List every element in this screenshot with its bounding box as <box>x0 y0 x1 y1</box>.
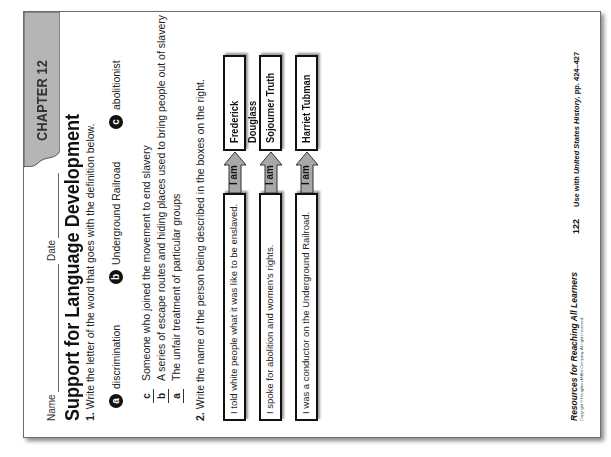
worksheet-page: CHAPTER 12 Name Date Support for Languag… <box>23 11 601 438</box>
chapter-tab: CHAPTER 12 <box>24 12 60 169</box>
letter-bubble-c: c <box>109 115 123 129</box>
definition-text-3: The unfair treatment of particular group… <box>170 194 182 381</box>
name-line[interactable] <box>58 264 59 392</box>
footer-left: Resources for Reaching All Learners Copy… <box>569 272 584 421</box>
question-1-number: 1. <box>84 412 96 421</box>
answer-blank-3[interactable]: a <box>171 389 184 403</box>
arrow-2: I am <box>260 151 282 193</box>
date-line[interactable] <box>58 173 59 238</box>
footer-copyright: Copyright © Houghton Mifflin Company. Al… <box>579 272 584 421</box>
word-discrimination: discrimination <box>110 325 122 389</box>
word-bank-item-c: cabolitionist <box>106 60 124 129</box>
page-title: Support for Language Development <box>60 114 84 421</box>
footer-book-name: United States History, <box>572 96 581 174</box>
name-answer-1: Frederick Douglass <box>225 70 261 143</box>
name-label: Name <box>46 394 57 421</box>
word-bank-item-a: adiscrimination <box>106 325 124 408</box>
page-number: 122 <box>571 219 581 234</box>
letter-bubble-b: b <box>109 270 123 284</box>
footer-use-with: Use with <box>572 174 581 207</box>
name-answer-3: Harriet Tubman <box>297 75 315 143</box>
arrow-3: I am <box>296 151 318 193</box>
date-label: Date <box>46 240 57 261</box>
name-box-3[interactable]: Harriet Tubman <box>295 55 318 151</box>
footer-pages: pp. 424–427 <box>572 52 581 97</box>
word-bank-item-b: bUnderground Railroad <box>106 162 124 284</box>
question-1-prompt: 1. Write the letter of the word that goe… <box>84 124 96 422</box>
arrow-1: I am <box>224 151 246 193</box>
question-2-text: Write the name of the person being descr… <box>194 79 206 409</box>
definition-row-3: aThe unfair treatment of particular grou… <box>166 194 184 403</box>
arrow-label-3: I am <box>299 165 311 185</box>
word-abolitionist: abolitionist <box>110 60 122 110</box>
name-box-2[interactable]: Sojourner Truth <box>259 55 282 151</box>
footer-book-title: Resources for Reaching All Learners <box>569 272 579 421</box>
footer-right: Use with United States History, pp. 424–… <box>572 52 581 207</box>
arrow-label-1: I am <box>227 165 239 185</box>
question-2-number: 2. <box>194 412 206 421</box>
name-answer-2: Sojourner Truth <box>261 73 279 143</box>
clue-box-3: I was a conductor on the Underground Rai… <box>295 193 318 421</box>
arrow-label-2: I am <box>263 165 275 185</box>
name-box-1[interactable]: Frederick Douglass <box>223 55 246 151</box>
clue-box-1: I told white people what it was like to … <box>223 193 246 421</box>
clue-box-2: I spoke for abolition and women’s rights… <box>259 193 282 421</box>
word-underground-railroad: Underground Railroad <box>110 162 122 265</box>
rotated-page-content: CHAPTER 12 Name Date Support for Languag… <box>24 12 601 438</box>
question-1-text: Write the letter of the word that goes w… <box>84 124 96 410</box>
letter-bubble-a: a <box>109 394 123 408</box>
chapter-label: CHAPTER 12 <box>33 60 50 141</box>
question-2-prompt: 2. Write the name of the person being de… <box>194 79 206 421</box>
